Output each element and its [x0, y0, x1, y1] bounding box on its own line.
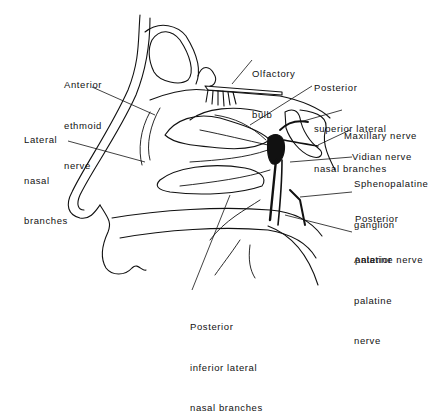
- leader-anterior-palatine: [285, 215, 352, 232]
- inferior-turbinate: [157, 166, 264, 194]
- leader-olfactory: [232, 60, 252, 84]
- frontal-sinus: [149, 32, 191, 83]
- leader-lines: [68, 60, 352, 290]
- hard-palate-lower: [120, 228, 316, 258]
- label-anterior-palatine-nerve: Anterior palatine nerve: [354, 226, 392, 361]
- crista-galli: [198, 68, 216, 87]
- nerve-branches: [140, 108, 270, 278]
- palatine-nerve-trunk-2: [278, 160, 282, 225]
- label-posterior-inferior-lateral-nasal-branches: Posterior inferior lateral nasal branche…: [190, 293, 263, 415]
- label-lateral-nasal-branches: Lateral nasal branches: [24, 106, 68, 241]
- soft-palate: [268, 226, 318, 285]
- leader-posterior-palatine: [300, 192, 352, 197]
- upper-lip-outline: [100, 205, 146, 274]
- nasal-roof: [150, 89, 330, 118]
- label-olfactory-bulb: Olfactory bulb: [252, 40, 295, 135]
- label-anterior-ethmoid-nerve: Anterior ethmoid nerve: [64, 51, 102, 186]
